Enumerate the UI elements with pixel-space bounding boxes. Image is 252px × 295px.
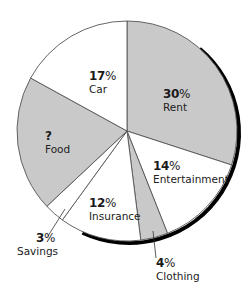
label-entertainment: 14% Entertainment bbox=[153, 160, 229, 185]
food-percent: ? bbox=[45, 129, 52, 143]
label-car: 17% Car bbox=[89, 70, 116, 95]
label-savings: 3% Savings bbox=[17, 232, 58, 257]
label-food: ? Food bbox=[45, 130, 70, 155]
insurance-percent: 12 bbox=[89, 196, 105, 210]
entertainment-percent: 14 bbox=[153, 159, 169, 173]
clothing-percent: 4 bbox=[156, 256, 164, 270]
savings-percent: 3 bbox=[36, 231, 44, 245]
label-clothing: 4% Clothing bbox=[156, 257, 200, 282]
entertainment-name: Entertainment bbox=[153, 174, 229, 185]
label-rent: 30% Rent bbox=[163, 88, 190, 113]
car-name: Car bbox=[89, 84, 116, 95]
food-name: Food bbox=[45, 144, 70, 155]
rent-percent: 30 bbox=[163, 87, 179, 101]
rent-name: Rent bbox=[163, 102, 190, 113]
savings-name: Savings bbox=[17, 246, 58, 257]
label-insurance: 12% Insurance bbox=[89, 197, 141, 222]
car-percent: 17 bbox=[89, 69, 105, 83]
insurance-name: Insurance bbox=[89, 211, 141, 222]
clothing-name: Clothing bbox=[156, 271, 200, 282]
